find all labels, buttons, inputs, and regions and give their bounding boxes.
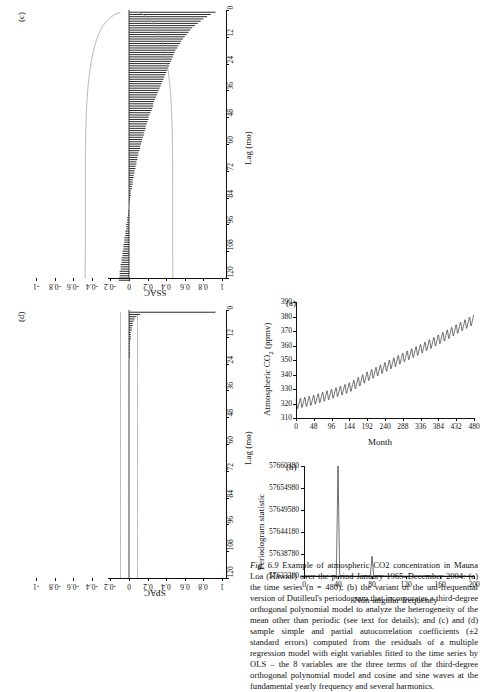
panel-d: (d) -1-0.8-0.6-0.4-0.200.20.40.60.81 SPA…	[0, 300, 244, 600]
panel-d-value-tick: -1	[26, 582, 46, 591]
figure-caption: Fig. 6.9 Example of atmospheric CO2 conc…	[250, 560, 478, 692]
panel-a-svg	[296, 302, 474, 418]
panel-c-lag-axis-title: Lag (mo)	[243, 131, 253, 165]
panel-c-lag-tick: 24	[226, 45, 235, 63]
panel-b-y-axis-title: Periodogram statistic	[256, 494, 266, 570]
panel-a-xtick: 96	[324, 422, 340, 431]
panel-c-lag-tick: 0	[226, 0, 235, 10]
panel-d-lag-tick: 12	[226, 318, 235, 336]
figure-caption-label: Fig. 6.9	[250, 560, 279, 570]
panel-d-value-tick: 1	[212, 582, 232, 591]
panel-a-x-axis-title: Month	[368, 437, 392, 447]
panel-a-ytick: 330	[274, 384, 292, 393]
panel-d-label: (d)	[16, 312, 26, 323]
panel-c-value-tick: 0.6	[175, 282, 195, 291]
panel-d-lag-tick: 120	[226, 560, 235, 578]
figure-caption-text: Example of atmospheric CO2 concentration…	[250, 560, 478, 691]
panel-b-ytick: 57654980	[258, 483, 299, 492]
panel-c-value-axis-title: SSAC	[144, 288, 167, 298]
panel-a-ytick: 320	[274, 399, 292, 408]
panel-c-value-tick: 1	[212, 282, 232, 291]
panel-d-lag-tick: 96	[226, 506, 235, 524]
panel-a-ytick: 350	[274, 355, 292, 364]
panel-c-svg	[108, 10, 226, 278]
panel-a-xtick: 288	[395, 422, 411, 431]
panel-d-value-tick: -0.6	[63, 582, 83, 591]
panel-a-xtick: 144	[341, 422, 357, 431]
panel-d-lag-tick: 84	[226, 479, 235, 497]
panel-c-lag-tick: 60	[226, 126, 235, 144]
panel-d-value-axis	[108, 578, 226, 579]
panel-d-value-tick: 0.6	[175, 582, 195, 591]
panel-a-y-axis-title: Atmospheric CO2 (ppmv)	[262, 323, 275, 417]
panel-d-lag-tick: 72	[226, 452, 235, 470]
panel-c-label: (c)	[16, 12, 26, 22]
panel-d-lag-tick: 48	[226, 399, 235, 417]
panel-c-lag-tick: 96	[226, 206, 235, 224]
panel-c: (c) -1-0.8-0.6-0.4-0.200.20.40.60.81 SSA…	[0, 0, 244, 300]
panel-c-value-tick: -0.6	[63, 282, 83, 291]
panel-a-xtick: 48	[306, 422, 322, 431]
panel-c-value-tick: -0.8	[45, 282, 65, 291]
panel-d-value-tick: 0.8	[193, 582, 213, 591]
panel-a-ytick: 310	[274, 413, 292, 422]
panel-a-xtick: 432	[448, 422, 464, 431]
panel-c-lag-tick: 84	[226, 179, 235, 197]
panel-d-lag-tick: 36	[226, 372, 235, 390]
panel-a-ytick: 360	[274, 341, 292, 350]
panel-a-plot	[296, 302, 474, 418]
panel-d-lag-tick: 108	[226, 533, 235, 551]
panel-a-ytick: 390	[274, 297, 292, 306]
panel-d-value-tick: 0	[119, 582, 139, 591]
panel-c-lag-tick: 12	[226, 18, 235, 36]
panel-a-xtick: 0	[288, 422, 304, 431]
panel-c-value-tick: -1	[26, 282, 46, 291]
panel-d-value-tick: -0.2	[100, 582, 120, 591]
panel-a-ytick: 380	[274, 312, 292, 321]
panel-a-y-axis	[296, 302, 297, 418]
panel-b-ytick: 57660380	[258, 461, 299, 470]
panel-c-value-tick: 0	[119, 282, 139, 291]
panel-c-value-axis	[108, 278, 226, 279]
panel-a-xtick: 336	[413, 422, 429, 431]
panel-c-lag-tick: 120	[226, 260, 235, 278]
panel-c-lag-tick: 36	[226, 72, 235, 90]
panel-d-value-tick: -0.4	[82, 582, 102, 591]
panel-d-svg	[108, 310, 226, 578]
panel-a-ytick: 340	[274, 370, 292, 379]
panel-d-lag-tick: 60	[226, 426, 235, 444]
panel-d-lag-tick: 24	[226, 345, 235, 363]
panel-c-value-tick: -0.4	[82, 282, 102, 291]
panel-c-lag-tick: 72	[226, 152, 235, 170]
panel-c-lag-tick: 108	[226, 233, 235, 251]
panel-d-lag-tick: 0	[226, 292, 235, 310]
panel-a-ytick: 370	[274, 326, 292, 335]
panel-a: (a) 310320330340350360370380390 Atmosphe…	[250, 296, 484, 466]
panel-d-value-tick: -0.8	[45, 582, 65, 591]
panel-c-lag-tick: 48	[226, 99, 235, 117]
panel-c-value-tick: 0.8	[193, 282, 213, 291]
panel-d-value-axis-title: SPAC	[144, 588, 166, 598]
panel-a-xtick: 384	[430, 422, 446, 431]
panel-c-value-tick: -0.2	[100, 282, 120, 291]
panel-a-xtick: 480	[466, 422, 482, 431]
panel-c-plot	[108, 10, 226, 278]
panel-d-plot	[108, 310, 226, 578]
panel-a-xtick: 192	[359, 422, 375, 431]
panel-a-xtick: 240	[377, 422, 393, 431]
